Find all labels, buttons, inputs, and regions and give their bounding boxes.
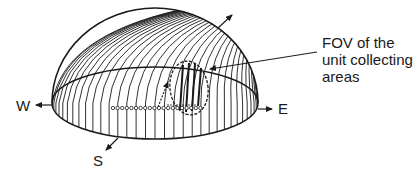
sky-hemisphere-diagram: W E S FOV of the unit collecting areas bbox=[0, 0, 417, 174]
meridian-line bbox=[174, 10, 246, 138]
collecting-area bbox=[194, 106, 197, 109]
fov-annotation-line-3: areas bbox=[322, 68, 360, 85]
collecting-area bbox=[125, 106, 128, 109]
collecting-area bbox=[157, 106, 160, 109]
fov-leader-arrow bbox=[210, 52, 317, 69]
collecting-area bbox=[134, 106, 137, 109]
collecting-area bbox=[176, 106, 179, 109]
collecting-area bbox=[167, 106, 170, 109]
collecting-areas-row bbox=[111, 106, 202, 109]
meridian-line bbox=[242, 10, 266, 122]
meridian-line bbox=[118, 10, 218, 137]
collecting-area bbox=[185, 106, 188, 109]
collecting-area bbox=[199, 106, 202, 109]
collecting-area bbox=[162, 106, 165, 109]
south-label: S bbox=[93, 152, 103, 169]
collecting-area bbox=[153, 106, 156, 109]
meridian-line bbox=[231, 10, 265, 127]
collecting-area bbox=[180, 106, 183, 109]
array-pointing-arrow bbox=[158, 82, 168, 107]
collecting-area bbox=[116, 106, 119, 109]
collecting-area bbox=[111, 106, 114, 109]
zenith-arrow bbox=[218, 15, 232, 28]
collecting-area bbox=[148, 106, 151, 109]
west-label: W bbox=[16, 97, 31, 114]
collecting-area bbox=[144, 106, 147, 109]
meridian-lines bbox=[52, 10, 265, 139]
east-label: E bbox=[278, 100, 288, 117]
meridian-line bbox=[217, 10, 262, 132]
collecting-area bbox=[190, 106, 193, 109]
collecting-area bbox=[139, 106, 142, 109]
collecting-area bbox=[121, 106, 124, 109]
fov-annotation-line-1: FOV of the bbox=[322, 34, 395, 51]
fov-annotation-line-2: unit collecting bbox=[322, 51, 413, 68]
meridian-line bbox=[224, 10, 264, 130]
meridian-line bbox=[54, 10, 180, 110]
meridian-line bbox=[63, 10, 186, 119]
collecting-area bbox=[171, 106, 174, 109]
collecting-area bbox=[130, 106, 133, 109]
south-arrow bbox=[106, 138, 118, 150]
